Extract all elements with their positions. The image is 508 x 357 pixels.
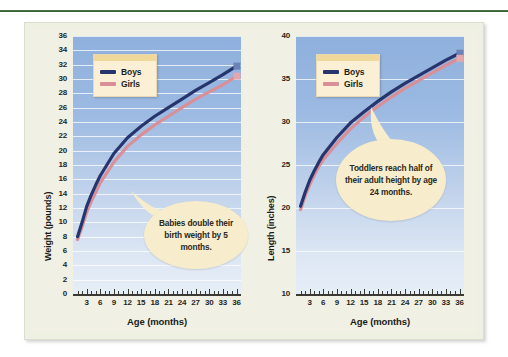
y-tick-label: 18 [39,161,67,169]
x-tick-minor [360,291,361,294]
y-tick-label: 24 [39,118,67,126]
x-tick-minor [137,291,138,294]
y-tick-label: 14 [39,190,67,198]
x-tick-major [100,289,101,294]
legend-label-boys: Boys [344,67,364,77]
x-tick-minor [205,291,206,294]
x-tick-major [155,289,156,294]
weight-chart: Weight (pounds) 024681012141618202224262… [31,29,254,333]
x-tick-major [128,289,129,294]
endpoint-marker-girls [233,73,240,80]
y-tick-label: 12 [39,204,67,212]
figure-card-inner: Weight (pounds) 024681012141618202224262… [31,29,477,333]
x-tick-minor [177,291,178,294]
weight-callout-bubble: Babies double their birth weight by 5 mo… [144,201,248,269]
x-tick-major [351,289,352,294]
x-tick-label: 36 [450,299,470,307]
x-tick-major [460,289,461,294]
x-tick-minor [200,291,201,294]
top-accent-rule [0,10,508,12]
x-tick-major [323,289,324,294]
length-callout-bubble: Toddlers reach half of their adult heigh… [336,139,446,221]
x-tick-minor [355,291,356,294]
x-tick-major [391,289,392,294]
endpoint-marker-girls [456,55,463,62]
legend-label-boys: Boys [121,67,141,77]
x-tick-minor [373,291,374,294]
y-tick-label: 30 [262,118,290,126]
x-tick-minor [314,291,315,294]
y-tick-label: 2 [39,276,67,284]
legend-swatch-girls [100,82,116,86]
x-tick-major [114,289,115,294]
x-tick-minor [382,291,383,294]
x-tick-minor [400,291,401,294]
x-tick-minor [214,291,215,294]
y-tick-label: 26 [39,104,67,112]
x-tick-minor [332,291,333,294]
y-tick-label: 10 [262,290,290,298]
x-tick-minor [91,291,92,294]
x-tick-label: 36 [227,299,247,307]
x-tick-minor [341,291,342,294]
y-tick-label: 0 [39,290,67,298]
legend-swatch-girls [323,82,339,86]
x-tick-minor [164,291,165,294]
figure-card: Weight (pounds) 024681012141618202224262… [24,22,484,340]
length-callout-text: Toddlers reach half of their adult heigh… [336,162,446,198]
x-tick-major [196,289,197,294]
y-tick-label: 40 [262,32,290,40]
y-tick-label: 25 [262,161,290,169]
y-tick-label: 32 [39,61,67,69]
x-tick-minor [396,291,397,294]
x-tick-minor [150,291,151,294]
endpoint-marker-boys [233,63,240,70]
x-tick-minor [105,291,106,294]
x-tick-major [378,289,379,294]
x-tick-minor [346,291,347,294]
legend-swatch-boys [323,70,339,74]
legend-body: Boys Girls [94,61,156,96]
y-tick-label: 36 [39,32,67,40]
x-tick-minor [319,291,320,294]
y-tick-label: 22 [39,132,67,140]
y-tick-label: 28 [39,89,67,97]
x-tick-major [237,289,238,294]
y-tick-label: 16 [39,175,67,183]
x-tick-major [182,289,183,294]
x-tick-major [446,289,447,294]
length-chart: Length (inches) 10152025303540 369121518… [254,29,477,333]
x-tick-minor [305,291,306,294]
weight-chart-x-axis-line [73,294,241,296]
x-tick-minor [187,291,188,294]
x-tick-major [337,289,338,294]
legend-entry-girls: Girls [100,79,149,89]
x-tick-minor [82,291,83,294]
length-chart-legend[interactable]: Boys Girls [316,54,380,97]
y-tick-label: 30 [39,75,67,83]
x-tick-major [432,289,433,294]
y-tick-label: 6 [39,247,67,255]
x-tick-minor [441,291,442,294]
x-tick-minor [159,291,160,294]
x-tick-minor [109,291,110,294]
x-tick-minor [328,291,329,294]
x-tick-minor [173,291,174,294]
x-tick-minor [410,291,411,294]
x-tick-minor [428,291,429,294]
x-tick-minor [78,291,79,294]
x-tick-minor [455,291,456,294]
x-tick-minor [146,291,147,294]
x-tick-minor [369,291,370,294]
legend-entry-girls: Girls [323,79,372,89]
x-tick-minor [123,291,124,294]
y-tick-label: 20 [262,204,290,212]
y-tick-label: 15 [262,247,290,255]
x-tick-minor [450,291,451,294]
x-tick-minor [118,291,119,294]
x-tick-major [364,289,365,294]
x-tick-major [310,289,311,294]
x-tick-minor [414,291,415,294]
x-tick-minor [387,291,388,294]
weight-chart-legend[interactable]: Boys Girls [93,54,157,97]
